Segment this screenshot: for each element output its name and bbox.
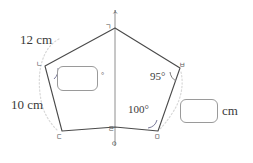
vertex-label-top-axis: ㅅ xyxy=(112,9,118,16)
degree-suffix-left: ° xyxy=(101,72,104,80)
angle-arc-lower-right xyxy=(148,120,157,128)
vertex-label-apex: ㄱ xyxy=(105,24,111,31)
angle-label-upper-right: 95° xyxy=(150,71,165,82)
side-length-label-top-left: 12 cm xyxy=(20,33,52,46)
vertex-label-upper-left: ㄴ xyxy=(36,61,42,68)
answer-box-right-length[interactable] xyxy=(180,99,218,123)
diagram-canvas: ㅅ ㄱ ㄴ ㄷ ㄹ ㅇ ㅁ ㅂ 12 cm 10 cm 95° 100° ° c… xyxy=(0,0,253,163)
angle-label-lower-right: 100° xyxy=(128,104,149,115)
geometry-figure xyxy=(0,0,253,163)
answer-box-left-angle[interactable] xyxy=(57,66,98,91)
vertex-label-bottom-axis: ㅇ xyxy=(111,141,117,148)
vertex-label-bottom-center: ㄹ xyxy=(108,126,114,133)
vertex-label-upper-right: ㅂ xyxy=(179,62,185,69)
side-length-label-left: 10 cm xyxy=(11,98,43,111)
angle-arc-upper-right xyxy=(170,72,176,81)
unit-suffix-right: cm xyxy=(222,104,238,117)
vertex-label-lower-right: ㅁ xyxy=(154,134,160,141)
vertex-label-lower-left: ㄷ xyxy=(56,134,62,141)
